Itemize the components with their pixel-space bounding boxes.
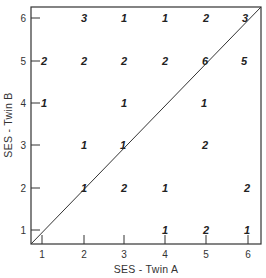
y-axis-title: SES - Twin B [2, 92, 14, 157]
cell-count: 2 [202, 224, 209, 236]
cell-count: 1 [81, 139, 87, 151]
cell-count: 1 [201, 97, 207, 109]
cell-count: 3 [81, 12, 87, 24]
cell-count: 1 [121, 12, 127, 24]
x-axis: 1 2 3 4 5 6 SES - Twin A [39, 235, 251, 275]
cell-count: 1 [162, 224, 168, 236]
cell-count: 1 [120, 139, 126, 151]
x-axis-title: SES - Twin A [114, 263, 179, 275]
y-axis: 6 5 4 3 2 1 SES - Twin B [2, 13, 40, 236]
x-tick-label: 2 [81, 249, 87, 260]
x-tick-label: 3 [121, 249, 127, 260]
y-tick-label: 2 [20, 183, 26, 194]
x-tick-label: 5 [203, 249, 209, 260]
x-tick-label: 6 [245, 249, 251, 260]
cell-count: 2 [80, 55, 87, 67]
cell-count: 2 [201, 139, 208, 151]
cell-count: 1 [121, 97, 127, 109]
identity-diagonal-line [31, 7, 261, 244]
cell-count: 1 [162, 182, 168, 194]
cell-count: 1 [244, 224, 250, 236]
y-tick-label: 3 [20, 140, 26, 151]
y-tick-label: 4 [20, 98, 26, 109]
cell-count: 1 [81, 182, 87, 194]
chart: 6 5 4 3 2 1 SES - Twin B 1 2 3 4 5 6 SES… [0, 0, 266, 278]
cell-count: 2 [161, 55, 168, 67]
cell-count: 2 [40, 55, 47, 67]
cell-count: 3 [242, 12, 248, 24]
y-tick-label: 1 [20, 225, 26, 236]
cell-count: 2 [243, 182, 250, 194]
x-tick-label: 1 [39, 249, 45, 260]
cell-count: 2 [120, 182, 127, 194]
cell-count: 6 [202, 55, 209, 67]
y-tick-label: 6 [20, 13, 26, 24]
cell-count: 2 [202, 12, 209, 24]
cell-count: 1 [162, 12, 168, 24]
cell-count: 5 [241, 55, 248, 67]
y-tick-label: 5 [20, 56, 26, 67]
cell-count: 2 [120, 55, 127, 67]
cell-count: 1 [41, 97, 47, 109]
x-tick-label: 4 [162, 249, 168, 260]
